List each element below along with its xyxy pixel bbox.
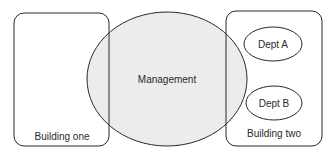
management-label: Management	[138, 74, 197, 85]
dept-b-label: Dept B	[259, 98, 290, 109]
dept-a-label: Dept A	[258, 39, 288, 50]
building-one-label: Building one	[34, 131, 89, 142]
venn-diagram: Management Building one Building two Dep…	[0, 0, 334, 165]
building-two-label: Building two	[247, 128, 301, 139]
